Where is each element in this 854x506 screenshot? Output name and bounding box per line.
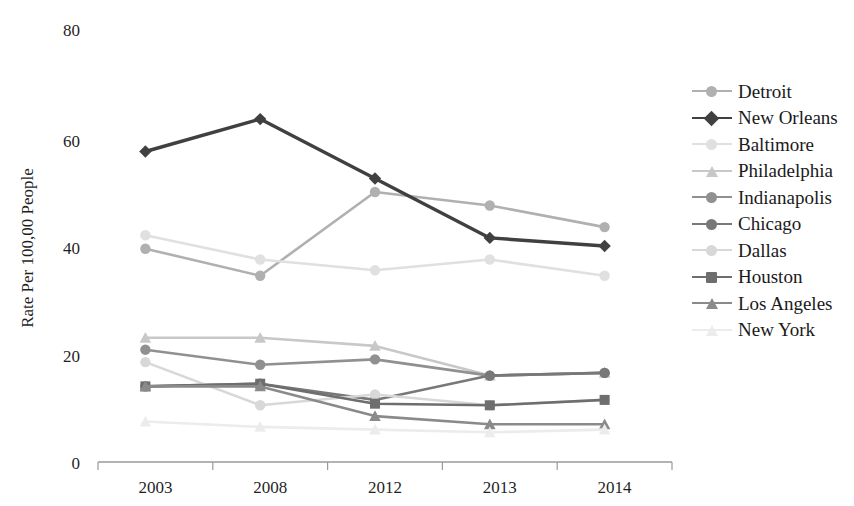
data-point-2014: [599, 222, 609, 232]
legend-marker-icon: [704, 110, 720, 126]
legend-item-dallas[interactable]: Dallas: [692, 237, 852, 264]
legend-swatch-icon: [692, 322, 732, 338]
data-point-2008: [255, 360, 265, 370]
data-point-2014: [598, 240, 610, 252]
legend-marker-icon: [706, 192, 717, 203]
data-point-2014: [599, 271, 609, 281]
data-point-2008: [255, 271, 265, 281]
legend-item-philadelphia[interactable]: Philadelphia: [692, 158, 852, 185]
legend-item-label: Los Angeles: [732, 294, 832, 313]
data-point-2013: [485, 200, 495, 210]
data-point-2003: [140, 230, 150, 240]
x-tick-label-2014: 2014: [598, 478, 633, 497]
data-point-2014: [599, 368, 609, 378]
y-axis-tick-labels: 80 60 40 20 0: [63, 21, 80, 473]
legend-item-indianapolis[interactable]: Indianapolis: [692, 184, 852, 211]
data-point-2014: [600, 395, 610, 405]
legend-item-baltimore[interactable]: Baltimore: [692, 131, 852, 158]
x-tick-label-2012: 2012: [368, 478, 402, 497]
y-tick-0: 0: [72, 454, 81, 473]
y-tick-60: 60: [63, 132, 80, 151]
legend-swatch-icon: [692, 163, 732, 179]
legend-item-label: New Orleans: [732, 108, 838, 127]
legend-swatch-icon: [692, 295, 732, 311]
legend-swatch-icon: [692, 189, 732, 205]
legend-item-label: Indianapolis: [732, 188, 832, 207]
legend-swatch-icon: [692, 269, 732, 285]
series-baltimore: [140, 230, 610, 281]
y-tick-40: 40: [63, 239, 80, 258]
legend-item-detroit[interactable]: Detroit: [692, 78, 852, 105]
legend-item-label: Detroit: [732, 82, 792, 101]
x-tick-label-2003: 2003: [138, 478, 172, 497]
legend-item-los-angeles[interactable]: Los Angeles: [692, 290, 852, 317]
data-point-2003: [139, 145, 151, 157]
data-point-2012: [370, 265, 380, 275]
legend-item-label: Chicago: [732, 214, 801, 233]
data-point-2012: [370, 354, 380, 364]
data-point-2012: [369, 172, 381, 184]
legend-swatch-icon: [692, 136, 732, 152]
legend-item-label: Houston: [732, 267, 802, 286]
data-point-2013: [485, 370, 495, 380]
legend-marker-icon: [706, 86, 717, 97]
legend-item-label: Philadelphia: [732, 161, 833, 180]
y-tick-20: 20: [63, 347, 80, 366]
data-point-2012: [370, 399, 380, 409]
legend-swatch-icon: [692, 110, 732, 126]
legend-item-new-orleans[interactable]: New Orleans: [692, 105, 852, 132]
legend-swatch-icon: [692, 216, 732, 232]
legend-item-new-york[interactable]: New York: [692, 317, 852, 344]
data-point-2008: [254, 113, 266, 125]
legend-item-label: Dallas: [732, 241, 787, 260]
line-chart: 80 60 40 20 0 Rate Per 100,00 People 200…: [0, 0, 854, 506]
legend-marker-icon: [706, 325, 718, 336]
legend-swatch-icon: [692, 83, 732, 99]
data-point-2003: [140, 344, 150, 354]
series-layer: [139, 113, 611, 437]
legend-marker-icon: [706, 219, 717, 230]
legend-item-houston[interactable]: Houston: [692, 264, 852, 291]
legend-marker-icon: [706, 272, 717, 283]
data-point-2012: [370, 187, 380, 197]
x-tick-label-2008: 2008: [253, 478, 287, 497]
x-axis-tick-labels: 20032008201220132014: [138, 478, 632, 497]
legend-marker-icon: [706, 298, 718, 309]
data-point-2008: [255, 400, 265, 410]
series-line: [145, 192, 604, 276]
legend-item-chicago[interactable]: Chicago: [692, 211, 852, 238]
series-new-orleans: [139, 113, 611, 252]
y-tick-80: 80: [63, 21, 80, 40]
y-axis-title: Rate Per 100,00 People: [18, 168, 37, 328]
legend: DetroitNew OrleansBaltimorePhiladelphiaI…: [692, 78, 852, 343]
legend-item-label: New York: [732, 320, 815, 339]
legend-marker-icon: [706, 245, 717, 256]
data-point-2008: [255, 254, 265, 264]
data-point-2012: [370, 389, 380, 399]
data-point-2013: [485, 400, 495, 410]
x-axis-ticks: [98, 462, 672, 470]
data-point-2013: [484, 232, 496, 244]
legend-swatch-icon: [692, 242, 732, 258]
legend-marker-icon: [706, 139, 717, 150]
data-point-2003: [140, 244, 150, 254]
data-point-2003: [140, 357, 150, 367]
data-point-2013: [485, 254, 495, 264]
legend-marker-icon: [706, 166, 718, 177]
legend-item-label: Baltimore: [732, 135, 814, 154]
x-tick-label-2013: 2013: [483, 478, 517, 497]
